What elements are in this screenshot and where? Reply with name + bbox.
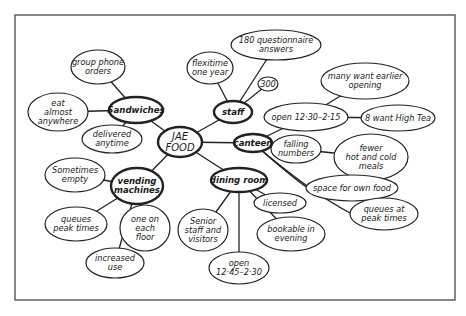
- node-label: licensed: [263, 198, 298, 208]
- node-falling-numbers: fallingnumbers: [271, 135, 321, 163]
- node-bookable-in-evening: bookable inevening: [257, 217, 325, 251]
- node-dining-room: dining room: [210, 168, 268, 192]
- node-label: dining room: [210, 175, 268, 185]
- node-vending-machines: vendingmachines: [111, 168, 163, 204]
- node-label: staff: [222, 107, 245, 117]
- node-label: 8 want High Tea: [365, 113, 431, 123]
- node-senior-staff-visitors: Seniorstaff andvisitors: [178, 209, 228, 251]
- node-flexitime-one-year: flexitimeone year: [187, 52, 233, 84]
- node-questionnaire-answers: 180 questionnaireanswers: [231, 30, 321, 60]
- node-label: machines: [114, 185, 160, 195]
- nodes-layer: group phoneorderseatalmostanywheredelive…: [28, 30, 435, 284]
- node-fewer-hot-cold-meals: fewerhot and coldmeals: [334, 134, 408, 180]
- mind-map-canvas: group phoneorderseatalmostanywheredelive…: [0, 0, 466, 316]
- node-label: 300: [260, 79, 276, 89]
- node-label: FOOD: [165, 142, 194, 153]
- node-label: JAE: [170, 131, 189, 142]
- node-label: empty: [62, 174, 88, 184]
- node-label: anytime: [95, 138, 129, 148]
- node-staff: staff: [214, 101, 252, 123]
- node-canteen-queues-peak: queues atpeak times: [350, 198, 418, 230]
- node-label: 12·45–2·30: [216, 267, 262, 277]
- node-label: Sandwiches: [107, 105, 164, 115]
- node-jae: JAEFOOD: [158, 127, 202, 157]
- node-staff-300: 300: [258, 77, 278, 91]
- node-one-on-each-floor: one oneachfloor: [120, 205, 170, 251]
- node-label: visitors: [188, 234, 218, 244]
- node-licensed: licensed: [254, 193, 306, 213]
- node-label: orders: [85, 66, 112, 76]
- node-label: canteen: [234, 138, 273, 148]
- node-increased-use: increaseduse: [86, 248, 144, 278]
- node-open-1245-230: open12·45–2·30: [209, 252, 269, 284]
- node-many-want-earlier-opening: many want earlieropening: [321, 63, 409, 99]
- node-label: one year: [192, 67, 229, 77]
- node-label: space for own food: [313, 183, 392, 193]
- node-label: open 12·30–2·15: [272, 112, 341, 122]
- node-label: use: [108, 262, 123, 272]
- node-vending-queues-peak: queuespeak times: [45, 207, 107, 241]
- node-sandwiches: Sandwiches: [107, 97, 164, 123]
- node-delivered-anytime: deliveredanytime: [82, 125, 142, 153]
- node-8-want-high-tea: 8 want High Tea: [361, 105, 435, 131]
- node-canteen: canteen: [234, 134, 273, 152]
- node-label: floor: [136, 232, 155, 242]
- node-label: evening: [275, 233, 308, 243]
- node-space-for-own-food: space for own food: [306, 175, 398, 201]
- node-label: peak times: [360, 213, 407, 223]
- node-label: opening: [348, 80, 381, 90]
- node-label: numbers: [278, 148, 315, 158]
- node-sometimes-empty: Sometimesempty: [45, 158, 105, 192]
- node-eat-almost-anywhere: eatalmostanywhere: [28, 93, 88, 131]
- node-group-phone-orders: group phoneorders: [71, 50, 125, 84]
- node-label: anywhere: [38, 116, 78, 126]
- node-open-1230-215: open 12·30–2·15: [264, 103, 348, 131]
- node-label: meals: [359, 161, 384, 171]
- node-label: answers: [259, 44, 294, 54]
- node-label: peak times: [52, 223, 99, 233]
